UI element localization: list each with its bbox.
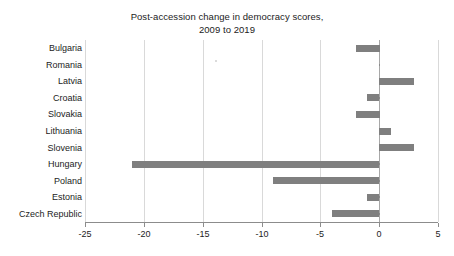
x-tick--25: [85, 223, 86, 227]
bar-slovenia: [379, 144, 414, 151]
x-tick-label--10: -10: [242, 229, 282, 240]
gridline--10: [262, 40, 263, 222]
bar-latvia: [379, 78, 414, 85]
gridline--25: [85, 40, 86, 222]
bar-poland: [273, 177, 379, 184]
y-label-slovakia: Slovakia: [0, 109, 82, 119]
gridline--15: [203, 40, 204, 222]
chart-title: Post-accession change in democracy score…: [0, 11, 454, 36]
axis-row-tick: [379, 163, 380, 165]
x-tick--5: [320, 223, 321, 227]
bar-hungary: [132, 161, 379, 168]
y-label-czech-republic: Czech Republic: [0, 209, 82, 219]
chart-title-line-2: 2009 to 2019: [0, 24, 454, 37]
gridline--20: [144, 40, 145, 222]
axis-row-tick: [379, 180, 380, 182]
x-axis-tick-labels: -25-20-15-10-505: [0, 229, 454, 243]
y-axis-category-labels: BulgariaRomaniaLatviaCroatiaSlovakiaLith…: [0, 40, 82, 222]
y-label-lithuania: Lithuania: [0, 126, 82, 136]
x-tick-label--20: -20: [124, 229, 164, 240]
y-label-estonia: Estonia: [0, 192, 82, 202]
gridline--5: [320, 40, 321, 222]
x-tick-label--5: -5: [300, 229, 340, 240]
y-label-hungary: Hungary: [0, 159, 82, 169]
x-tick-label--15: -15: [183, 229, 223, 240]
gridline-5: [438, 40, 439, 222]
y-label-croatia: Croatia: [0, 93, 82, 103]
x-tick-label-5: 5: [418, 229, 454, 240]
x-tick-label-0: 0: [359, 229, 399, 240]
bar-estonia: [367, 194, 379, 201]
axis-row-tick: [379, 97, 380, 99]
y-label-bulgaria: Bulgaria: [0, 43, 82, 53]
axis-row-tick: [379, 213, 380, 215]
y-label-poland: Poland: [0, 176, 82, 186]
bar-czech-republic: [332, 210, 379, 217]
x-tick--20: [144, 223, 145, 227]
bar-lithuania: [379, 128, 391, 135]
y-label-slovenia: Slovenia: [0, 143, 82, 153]
bar-croatia: [367, 94, 379, 101]
chart-title-line-1: Post-accession change in democracy score…: [0, 11, 454, 24]
x-tick--10: [262, 223, 263, 227]
axis-row-tick: [379, 196, 380, 198]
y-label-latvia: Latvia: [0, 76, 82, 86]
x-tick-5: [438, 223, 439, 227]
x-tick-0: [379, 223, 380, 227]
democracy-scores-bar-chart: Post-accession change in democracy score…: [0, 0, 454, 256]
y-label-romania: Romania: [0, 60, 82, 70]
x-tick-label--25: -25: [65, 229, 105, 240]
axis-row-tick: [379, 64, 380, 66]
x-tick--15: [203, 223, 204, 227]
bar-slovakia: [356, 111, 380, 118]
plot-area: [85, 40, 438, 222]
bar-bulgaria: [356, 45, 380, 52]
scan-artifact-speck: [215, 60, 217, 62]
